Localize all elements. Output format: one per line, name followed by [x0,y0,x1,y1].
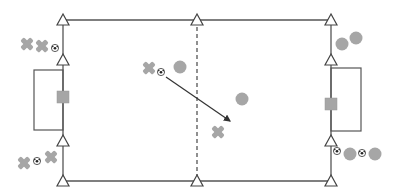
pitch-lines [63,20,331,181]
player-cross-icon [32,36,52,56]
ball-patch [52,46,54,48]
player-cross-icon [208,122,228,142]
ball-patch [162,70,164,72]
right-goal-marker [325,98,337,110]
ball-patch [334,149,336,151]
soccer-ball-icon [358,149,365,156]
ball-patch [363,151,365,153]
pitch-canvas [0,0,398,195]
soccer-ball-icon [333,147,340,154]
ball-patch [336,150,339,153]
ball-patch [361,152,364,155]
player-cross-icon [41,147,61,167]
drill-diagram [0,0,398,195]
cone-icon [57,54,69,65]
cone-icon [57,135,69,146]
player-cross-icon [17,34,37,54]
soccer-ball-icon [157,68,164,75]
pass-arrow-icon [166,77,230,121]
ball-patch [158,70,160,72]
ball-patch [36,160,39,163]
player-circle-icon [236,93,249,106]
player-circle-icon [369,148,382,161]
ball-patch [160,71,163,74]
pass-arrows [166,77,230,121]
player-circle-icon [336,38,349,51]
ball-patch [54,47,57,50]
player-circle-icon [344,148,357,161]
cone-icon [325,135,337,146]
balls [33,44,365,164]
ball-patch [359,151,361,153]
left-goal-marker [57,91,69,103]
ball-patch [56,46,58,48]
ball-patch [38,159,40,161]
cone-icon [325,54,337,65]
player-circle-icon [350,32,363,45]
ball-patch [338,149,340,151]
player-circle-icon [174,61,187,74]
ball-patch [34,159,36,161]
player-cross-icon [14,153,34,173]
player-cross-icon [139,58,159,78]
soccer-ball-icon [51,44,58,51]
soccer-ball-icon [33,157,40,164]
